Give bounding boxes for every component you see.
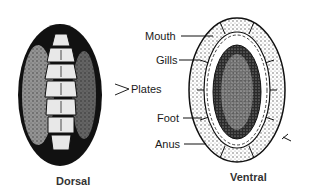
- artist-signature: [282, 134, 291, 141]
- dorsal-view: [18, 24, 102, 166]
- plates-pointer: [115, 84, 129, 95]
- plates-label: Plates: [131, 83, 162, 95]
- gills-label: Gills: [156, 54, 177, 66]
- ventral-caption: Ventral: [230, 171, 267, 183]
- foot-label: Foot: [157, 112, 179, 124]
- ventral-view: [189, 18, 291, 162]
- mouth-label: Mouth: [145, 30, 176, 42]
- anus-label: Anus: [155, 138, 180, 150]
- dorsal-caption: Dorsal: [56, 175, 90, 187]
